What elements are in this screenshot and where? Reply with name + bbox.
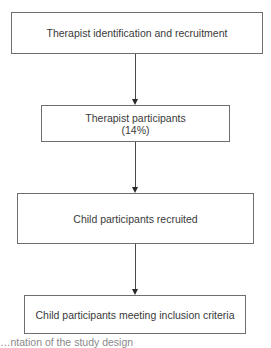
node-child-recruited: Child participants recruited [17,193,254,244]
node-label: Therapist participants [85,112,185,124]
node-percentage: (14%) [121,124,149,136]
node-child-inclusion: Child participants meeting inclusion cri… [24,295,246,334]
node-label: Child participants meeting inclusion cri… [35,309,234,321]
connector-line [135,244,136,289]
node-therapist-identification: Therapist identification and recruitment [11,12,263,54]
node-therapist-participants: Therapist participants (14%) [41,105,230,142]
connector-line [135,142,136,187]
node-label: Therapist identification and recruitment [47,27,228,39]
figure-caption: …ntation of the study design [0,336,133,348]
connector-line [135,54,136,99]
node-label: Child participants recruited [73,213,197,225]
